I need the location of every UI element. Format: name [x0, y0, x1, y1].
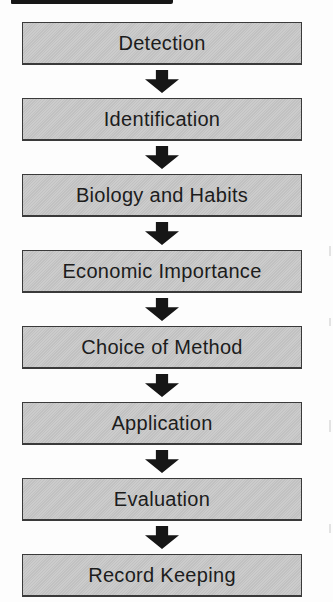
flow-step-label: Biology and Habits — [76, 184, 248, 207]
flow-step-label: Record Keeping — [88, 564, 236, 587]
flow-step-evaluation: Evaluation — [22, 478, 302, 521]
flow-step-identification: Identification — [22, 98, 302, 141]
flow-step-detection: Detection — [22, 22, 302, 65]
down-arrow-icon — [145, 222, 179, 245]
flow-step-label: Economic Importance — [62, 260, 261, 283]
flow-step-label: Choice of Method — [81, 336, 243, 359]
flow-step-label: Identification — [104, 108, 221, 131]
down-arrow-icon — [145, 70, 179, 93]
flow-step-record-keeping: Record Keeping — [22, 554, 302, 597]
flow-step-label: Detection — [118, 32, 205, 55]
down-arrow-icon — [145, 450, 179, 473]
flow-step-economic-importance: Economic Importance — [22, 250, 302, 293]
scan-artifact-top-bar — [11, 0, 173, 4]
flow-step-label: Evaluation — [114, 488, 210, 511]
scan-artifact-edge-mark — [329, 420, 331, 432]
flow-step-label: Application — [111, 412, 212, 435]
figure-page: Detection Identification Biology and Hab… — [0, 0, 333, 602]
down-arrow-icon — [145, 146, 179, 169]
down-arrow-icon — [145, 298, 179, 321]
down-arrow-icon — [145, 526, 179, 549]
scan-artifact-edge-mark — [329, 318, 331, 326]
scan-artifact-edge-mark — [329, 524, 331, 533]
scan-artifact-edge-mark — [329, 246, 331, 256]
down-arrow-icon — [145, 374, 179, 397]
flow-step-application: Application — [22, 402, 302, 445]
flow-step-biology-and-habits: Biology and Habits — [22, 174, 302, 217]
flowchart: Detection Identification Biology and Hab… — [22, 22, 302, 597]
flow-step-choice-of-method: Choice of Method — [22, 326, 302, 369]
